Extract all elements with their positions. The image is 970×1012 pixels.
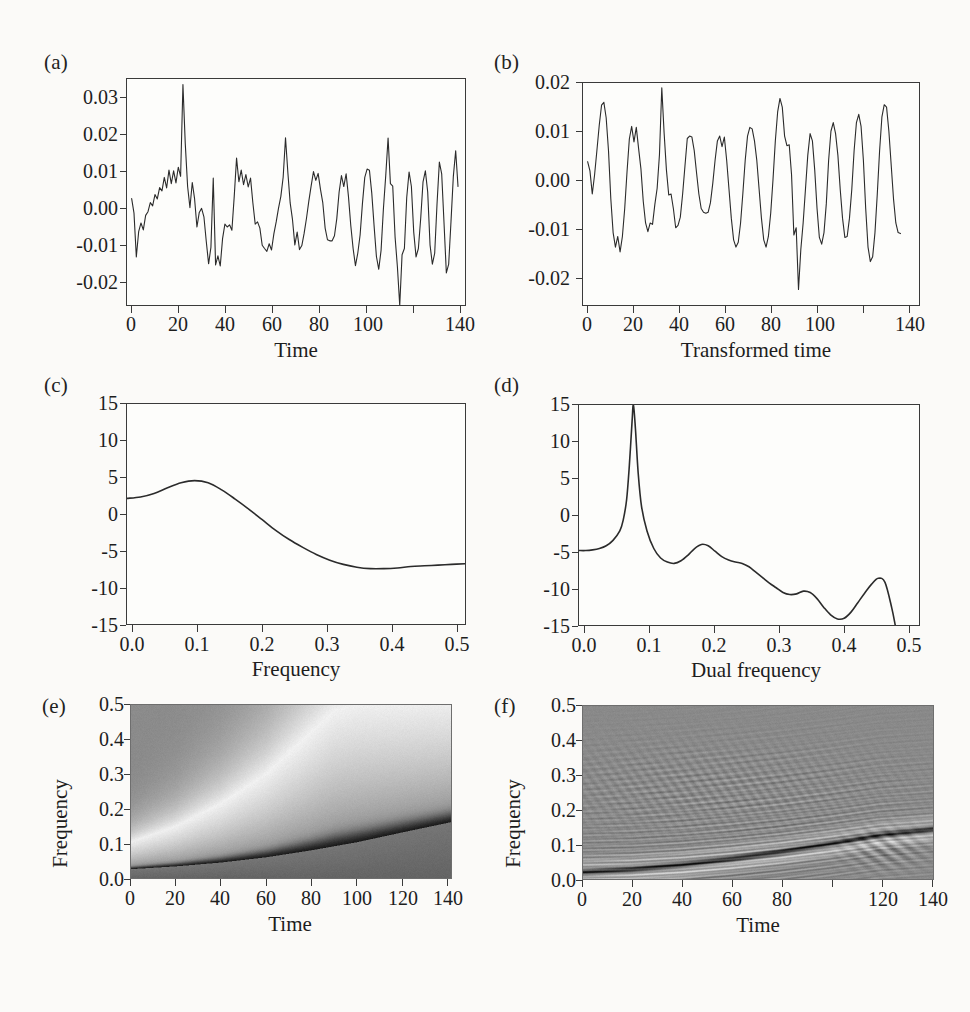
- panel-f-xlabel: Time: [658, 913, 858, 938]
- panel-a-xtickmark-2: [225, 306, 226, 313]
- panel-d-ytickmark-6: [572, 626, 578, 627]
- panel-e-xtick-1: 20: [165, 887, 185, 910]
- panel-c-xtickmark-4: [392, 625, 393, 632]
- panel-a-ytick-2: 0.01: [48, 160, 118, 183]
- panel-e-ytick-4: 0.1: [60, 833, 124, 856]
- panel-a-xtickmark-5: [366, 306, 367, 313]
- panel-f-xtick-6: 120: [868, 888, 898, 911]
- panel-e-xtickmark-1: [175, 879, 176, 886]
- panel-a-ytick-4: -0.01: [42, 234, 118, 257]
- panel-b-ytick-3: -0.01: [494, 218, 570, 241]
- panel-b-xtick-5: 100: [805, 313, 835, 336]
- panel-a-xtickmark-7: [460, 306, 461, 313]
- panel-d-series-svg: [579, 405, 919, 625]
- panel-d-xtickmark-5: [909, 626, 910, 633]
- panel-c: (c) 15 10 5 0 -5 -10 -15 0.0 0.1 0.2 0.3…: [0, 360, 480, 686]
- panel-f-ytick-2: 0.3: [512, 764, 576, 787]
- panel-d-ytick-2: 5: [502, 467, 570, 490]
- panel-e-xtick-5: 100: [342, 887, 372, 910]
- panel-a-label: (a): [44, 50, 68, 75]
- panel-b-ytick-4: -0.02: [494, 267, 570, 290]
- panel-a-series-svg: [127, 79, 465, 305]
- panel-f: (f) Frequency 0.5 0.4 0.3 0.2 0.1 0.0 0 …: [480, 686, 970, 1012]
- panel-b-xtick-3: 60: [715, 313, 735, 336]
- panel-f-ytick-5: 0.0: [512, 869, 576, 892]
- panel-c-ytick-4: -5: [44, 540, 118, 563]
- panel-e-heatmap-svg: [130, 704, 452, 879]
- panel-f-ytick-4: 0.1: [512, 834, 576, 857]
- panel-c-xtickmark-0: [132, 625, 133, 632]
- panel-c-xtick-0: 0.0: [120, 633, 145, 656]
- panel-f-xtickmark-1: [632, 880, 633, 887]
- panel-e-xtick-7: 140: [433, 887, 463, 910]
- panel-c-xtickmark-2: [262, 625, 263, 632]
- panel-d-ytick-1: 10: [502, 430, 570, 453]
- panel-b-xtick-0: 0: [582, 313, 592, 336]
- panel-d-ytick-0: 15: [502, 393, 570, 416]
- panel-e-xtickmark-7: [447, 879, 448, 886]
- panel-f-xtick-1: 20: [622, 888, 642, 911]
- panel-c-xtick-3: 0.3: [315, 633, 340, 656]
- panel-f-xtickmark-6: [882, 880, 883, 887]
- panel-d-ytick-5: -10: [496, 578, 570, 601]
- panel-c-xtick-4: 0.4: [380, 633, 405, 656]
- panel-b-xtickmark-7: [909, 306, 910, 313]
- panel-f-ytick-1: 0.4: [512, 729, 576, 752]
- panel-d-xtickmark-3: [779, 626, 780, 633]
- panel-a-xtickmark-3: [272, 306, 273, 313]
- panel-d-ytick-6: -15: [496, 615, 570, 638]
- panel-a-ytick-1: 0.02: [48, 123, 118, 146]
- panel-b-xtickmark-4: [771, 306, 772, 313]
- panel-d-xtick-4: 0.4: [832, 634, 857, 657]
- panel-b-xtickmark-3: [725, 306, 726, 313]
- panel-f-plot-area: [582, 705, 934, 880]
- panel-e-xtick-3: 60: [256, 887, 276, 910]
- panel-d-ytick-4: -5: [496, 541, 570, 564]
- panel-b-xtick-2: 40: [669, 313, 689, 336]
- panel-d-xtick-3: 0.3: [767, 634, 792, 657]
- panel-b-plot-area: [582, 82, 920, 306]
- figure-canvas: (a) 0.03 0.02 0.01 0.00 -0.01 -0.02 0 20…: [0, 0, 970, 1012]
- panel-a-xtick-1: 20: [168, 313, 188, 336]
- panel-c-xtickmark-5: [457, 625, 458, 632]
- panel-e-xtick-0: 0: [125, 887, 135, 910]
- panel-e-xtickmark-4: [311, 879, 312, 886]
- panel-c-ytickmark-6: [120, 625, 126, 626]
- panel-e-ytick-5: 0.0: [60, 868, 124, 891]
- panel-f-xtick-7: 140: [918, 888, 948, 911]
- panel-d-xtick-2: 0.2: [702, 634, 727, 657]
- panel-b-xtick-1: 20: [623, 313, 643, 336]
- panel-c-xtick-1: 0.1: [185, 633, 210, 656]
- panel-b-xtickmark-0: [587, 306, 588, 313]
- panel-d-xtick-5: 0.5: [897, 634, 922, 657]
- panel-b-xtick-4: 80: [761, 313, 781, 336]
- panel-f-xtick-4: 80: [772, 888, 792, 911]
- panel-e: (e) Frequency 0.5 0.4 0.3 0.2 0.1 0.0 0 …: [0, 686, 480, 1012]
- panel-c-ytick-6: -15: [44, 614, 118, 637]
- panel-e-xtickmark-2: [220, 879, 221, 886]
- panel-b: (b) 0.02 0.01 0.00 -0.01 -0.02 0 20 40 6…: [480, 0, 970, 360]
- panel-a-xtickmark-6: [413, 306, 414, 313]
- panel-d-xtickmark-2: [714, 626, 715, 633]
- panel-c-ytick-2: 5: [50, 466, 118, 489]
- panel-c-ytick-1: 10: [50, 429, 118, 452]
- panel-a-ytick-3: 0.00: [48, 197, 118, 220]
- panel-d-xtickmark-0: [584, 626, 585, 633]
- panel-c-xtickmark-3: [327, 625, 328, 632]
- panel-f-heatmap-svg: [582, 705, 934, 880]
- panel-a: (a) 0.03 0.02 0.01 0.00 -0.01 -0.02 0 20…: [0, 0, 480, 360]
- panel-e-plot-area: [130, 704, 452, 879]
- panel-f-xtickmark-7: [932, 880, 933, 887]
- panel-e-ytick-1: 0.4: [60, 728, 124, 751]
- panel-e-ytick-2: 0.3: [60, 763, 124, 786]
- panel-c-xtickmark-1: [197, 625, 198, 632]
- panel-a-xtick-2: 40: [215, 313, 235, 336]
- panel-e-xtickmark-3: [266, 879, 267, 886]
- panel-c-plot-area: [126, 403, 466, 625]
- panel-a-plot-area: [126, 78, 466, 306]
- panel-d: (d) 15 10 5 0 -5 -10 -15 0.0 0.1 0.2 0.3…: [480, 360, 970, 686]
- panel-b-ytick-2: 0.00: [500, 169, 570, 192]
- panel-f-xtickmark-0: [582, 880, 583, 887]
- panel-f-xtickmark-3: [732, 880, 733, 887]
- panel-f-xtickmark-4: [782, 880, 783, 887]
